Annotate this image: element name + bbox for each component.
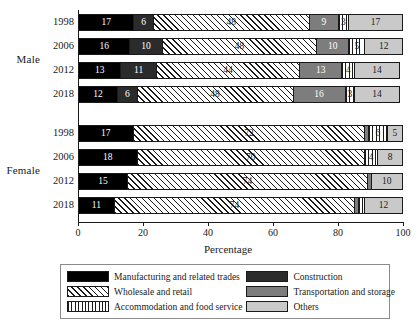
bar-segment-value: 5 xyxy=(393,129,398,138)
bar-segment-value: 12 xyxy=(379,201,389,210)
bar-row: 157410 xyxy=(78,173,403,190)
bar-segment-value: 6 xyxy=(141,18,146,27)
bar-segment-wholesale: 48 xyxy=(137,86,293,103)
bar-segment-value: 10 xyxy=(141,42,151,51)
bar-segment-value: 16 xyxy=(314,90,324,99)
x-tick-mark xyxy=(143,222,144,226)
bar-segment-value: 14 xyxy=(372,66,382,75)
bar-segment-others: 10 xyxy=(371,173,404,190)
legend-item-wholesale[interactable]: Wholesale and retail xyxy=(67,284,242,299)
x-tick-label-100: 100 xyxy=(396,228,411,238)
bar-segment-value: 5 xyxy=(354,42,359,51)
bar-segment-others: 12 xyxy=(364,197,403,214)
bar-segment-accommodation: 5 xyxy=(348,38,364,55)
bar-segment-manufacturing: 15 xyxy=(78,173,127,190)
bar-segment-value: 10 xyxy=(328,42,338,51)
legend-swatch-others xyxy=(246,301,288,312)
bar-segment-construction: 10 xyxy=(129,38,161,55)
bar-row: 117412 xyxy=(78,197,403,214)
x-axis-title-text: Percentage xyxy=(204,243,252,255)
bar-segment-wholesale: 48 xyxy=(162,38,316,55)
bar-segment-value: 48 xyxy=(235,42,245,51)
bar-segment-accommodation: 4 xyxy=(341,62,354,79)
legend-swatch-manufacturing xyxy=(67,271,109,282)
legend-label-construction: Construction xyxy=(293,272,342,282)
bar-segment-manufacturing: 17 xyxy=(78,14,133,31)
legend-grid: Manufacturing and related tradesConstruc… xyxy=(67,269,383,314)
bar-segment-manufacturing: 18 xyxy=(78,149,137,166)
group-label-male: Male xyxy=(0,53,40,65)
bar-row: 16104810512 xyxy=(78,38,403,55)
x-tick-mark xyxy=(338,222,339,226)
y-tick-label-2018: 2018 xyxy=(44,89,74,99)
bar-segment-value: 3 xyxy=(341,18,346,27)
y-tick-label-2012: 2012 xyxy=(44,176,74,186)
bar-segment-value: 11 xyxy=(134,66,143,75)
x-tick-label-80: 80 xyxy=(333,228,343,238)
x-axis-title: Percentage xyxy=(0,243,420,255)
bar-segment-manufacturing: 13 xyxy=(78,62,120,79)
bar-segment-value: 44 xyxy=(223,66,233,75)
x-tick-mark xyxy=(208,222,209,226)
bar-segment-transportation: 13 xyxy=(299,62,341,79)
stacked-bar-chart: 1764893171610481051213114413414126481631… xyxy=(0,0,420,326)
y-tick-label-1998: 1998 xyxy=(44,128,74,138)
legend-item-accommodation[interactable]: Accommodation and food service xyxy=(67,299,242,314)
bar-segment-others: 12 xyxy=(364,38,403,55)
x-tick-label-20: 20 xyxy=(138,228,148,238)
x-tick-mark xyxy=(403,222,404,226)
bar-segment-transportation: 10 xyxy=(316,38,348,55)
bar-segment-value: 14 xyxy=(372,90,382,99)
bar-segment-manufacturing: 17 xyxy=(78,125,133,142)
bar-segment-accommodation: 3 xyxy=(345,86,355,103)
bar-segment-accommodation: 6 xyxy=(368,125,387,142)
bar-segment-construction: 6 xyxy=(133,14,153,31)
bar-segment-wholesale: 74 xyxy=(127,173,368,190)
legend: Manufacturing and related tradesConstruc… xyxy=(60,264,390,319)
bar-segment-value: 13 xyxy=(316,66,326,75)
bar-segment-value: 74 xyxy=(230,201,240,210)
x-tick-label-40: 40 xyxy=(203,228,213,238)
legend-label-transportation: Transportation and storage xyxy=(293,287,395,297)
bar-segment-others: 14 xyxy=(354,86,400,103)
legend-label-manufacturing: Manufacturing and related trades xyxy=(114,272,240,282)
bar-segment-wholesale: 74 xyxy=(114,197,355,214)
legend-item-transportation[interactable]: Transportation and storage xyxy=(246,284,395,299)
bar-segment-accommodation: 3 xyxy=(338,14,348,31)
x-tick-mark xyxy=(78,222,79,226)
bar-segment-value: 18 xyxy=(103,153,113,162)
bar-segment-value: 12 xyxy=(379,42,389,51)
bar-row: 176489317 xyxy=(78,14,403,31)
bar-segment-construction: 11 xyxy=(120,62,156,79)
bar-segment-accommodation: 4 xyxy=(364,149,377,166)
bar-segment-value: 3 xyxy=(348,90,353,99)
legend-label-wholesale: Wholesale and retail xyxy=(114,287,192,297)
legend-swatch-transportation xyxy=(246,286,288,297)
legend-item-manufacturing[interactable]: Manufacturing and related trades xyxy=(67,269,242,284)
y-tick-label-1998: 1998 xyxy=(44,17,74,27)
bar-segment-wholesale: 44 xyxy=(156,62,299,79)
bar-segment-construction: 6 xyxy=(117,86,137,103)
plot-area: 1764893171610481051213114413414126481631… xyxy=(78,10,403,222)
bar-segment-value: 17 xyxy=(101,129,111,138)
legend-label-others: Others xyxy=(293,302,318,312)
legend-swatch-accommodation xyxy=(67,301,109,312)
bar-segment-value: 17 xyxy=(101,18,111,27)
bar-segment-value: 16 xyxy=(99,42,109,51)
bar-row: 187048 xyxy=(78,149,403,166)
group-label-female: Female xyxy=(0,164,40,176)
bar-segment-value: 12 xyxy=(93,90,103,99)
legend-swatch-wholesale xyxy=(67,286,109,297)
legend-label-accommodation: Accommodation and food service xyxy=(114,302,242,312)
bar-segment-value: 4 xyxy=(346,66,351,75)
legend-item-others[interactable]: Others xyxy=(246,299,395,314)
legend-item-construction[interactable]: Construction xyxy=(246,269,395,284)
bar-segment-value: 15 xyxy=(98,177,108,186)
x-axis-line xyxy=(78,222,404,223)
legend-swatch-construction xyxy=(246,271,288,282)
bar-segment-value: 6 xyxy=(125,90,130,99)
bar-segment-others: 17 xyxy=(348,14,403,31)
bar-row: 1264816314 xyxy=(78,86,403,103)
bar-segment-others: 8 xyxy=(377,149,403,166)
bar-segment-others: 5 xyxy=(387,125,403,142)
